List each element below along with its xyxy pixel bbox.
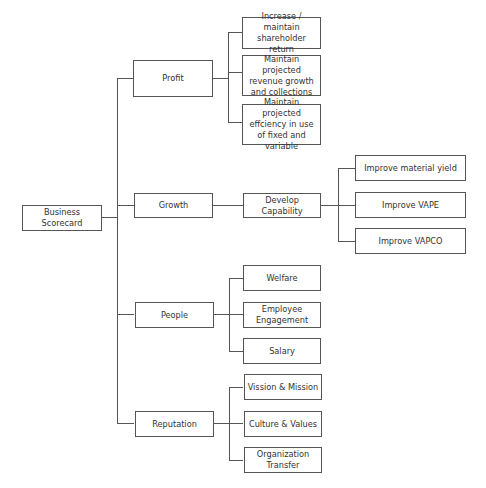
connector xyxy=(212,205,243,206)
node-reputation: Reputation xyxy=(135,411,214,437)
connector xyxy=(117,314,134,315)
connector xyxy=(213,314,243,315)
connector xyxy=(338,168,339,241)
trunk-line xyxy=(117,78,118,423)
connector xyxy=(229,351,243,352)
node-culture-values: Culture & Values xyxy=(244,411,322,437)
node-vapco: Improve VAPCO xyxy=(355,228,466,254)
connector xyxy=(212,78,228,79)
connector xyxy=(117,78,134,79)
connector xyxy=(101,217,117,218)
node-vape: Improve VAPE xyxy=(355,192,466,218)
connector xyxy=(228,72,242,73)
node-salary: Salary xyxy=(243,338,321,364)
node-profit: Profit xyxy=(133,60,213,97)
connector xyxy=(228,32,242,33)
connector xyxy=(229,278,230,351)
node-efficiency: Maintain projected effciency in use of f… xyxy=(242,104,321,145)
connector xyxy=(338,168,355,169)
connector xyxy=(117,205,134,206)
connector xyxy=(229,278,243,279)
connector xyxy=(213,423,243,424)
connector xyxy=(229,387,230,460)
node-vision-mission: Vission & Mission xyxy=(244,374,322,400)
node-people: People xyxy=(135,302,214,328)
connector xyxy=(229,387,243,388)
node-shareholder-return: Increase / maintain shareholder return xyxy=(242,17,321,49)
node-revenue-growth: Maintain projected revenue growth and co… xyxy=(242,55,321,96)
connector xyxy=(228,122,242,123)
node-welfare: Welfare xyxy=(243,265,321,291)
node-material-yield: Improve material yield xyxy=(355,155,466,181)
connector xyxy=(228,32,229,122)
node-business-scorecard: Business Scorecard xyxy=(22,205,102,231)
node-organization-transfer: Organization Transfer xyxy=(244,447,322,473)
connector xyxy=(117,423,134,424)
connector xyxy=(229,460,243,461)
node-employee-engagement: Employee Engagement xyxy=(243,302,321,328)
connector xyxy=(338,241,355,242)
node-growth: Growth xyxy=(134,193,213,218)
node-develop-capability: Develop Capability xyxy=(243,193,321,218)
